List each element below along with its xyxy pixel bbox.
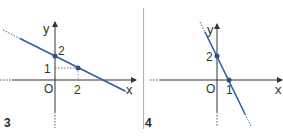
point-2-1 xyxy=(76,66,81,71)
line-dotted-extension-end xyxy=(245,114,251,126)
line-dotted-extension-start xyxy=(200,22,205,32)
graph-line xyxy=(20,39,125,92)
y-tick-1: 1 xyxy=(44,62,51,76)
y-axis-label: y xyxy=(43,21,50,36)
graph-3: y 2 1 O 2 x 3 xyxy=(0,21,136,130)
x-axis-label: x xyxy=(275,82,282,97)
origin-label: O xyxy=(44,82,53,96)
origin-label: O xyxy=(206,82,215,96)
line-dotted-extension-start xyxy=(3,30,20,39)
point-0-2 xyxy=(215,54,220,59)
y-axis-label: y xyxy=(207,22,214,37)
graph-line xyxy=(205,32,245,114)
x-tick-2: 2 xyxy=(74,83,81,97)
x-axis-label: x xyxy=(126,82,133,97)
point-1-0 xyxy=(227,78,232,83)
x-tick-1: 1 xyxy=(226,83,233,97)
figure-label-4: 4 xyxy=(145,116,152,130)
point-0-2 xyxy=(53,54,58,59)
figure-label-3: 3 xyxy=(4,116,11,130)
y-tick-2: 2 xyxy=(206,50,213,64)
graph-4: y 2 O 1 x 4 xyxy=(145,22,282,130)
graphs-figure: y 2 1 O 2 x 3 y 2 O 1 x 4 xyxy=(0,0,283,137)
y-tick-2: 2 xyxy=(58,44,65,58)
